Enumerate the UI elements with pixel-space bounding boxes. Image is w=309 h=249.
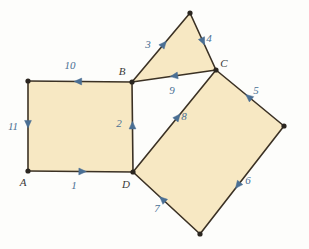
vertex-dot-A: [25, 168, 30, 173]
edge-5-label: 5: [253, 84, 259, 96]
edge-3-label: 3: [144, 38, 151, 50]
vertex-dot-B: [129, 79, 134, 84]
edge-2-label: 2: [116, 117, 122, 129]
edge-1-label: 1: [71, 179, 77, 191]
vertex-dot-D: [130, 169, 135, 174]
vertex-dot-left-square-top-left: [25, 78, 30, 83]
vertex-dot-right-square-east: [281, 123, 286, 128]
edge-7-label: 7: [154, 202, 160, 214]
edge-11-label: 11: [8, 120, 18, 132]
vertex-label-D: D: [121, 178, 130, 190]
vertex-dot-triangle-apex: [187, 10, 192, 15]
diagram-canvas: 1234567891011 ABCD: [0, 0, 309, 249]
edge-10-label: 10: [65, 59, 77, 71]
vertex-label-C: C: [220, 57, 228, 69]
vertex-label-B: B: [119, 65, 126, 77]
shapes-layer: [28, 13, 284, 234]
edge-9-label: 9: [169, 84, 175, 96]
vertex-label-A: A: [19, 176, 27, 188]
edge-6-label: 6: [245, 174, 251, 186]
vertex-dot-right-square-south: [197, 231, 202, 236]
edge-8-label: 8: [181, 110, 187, 122]
vertex-dot-C: [213, 67, 218, 72]
edge-4-label: 4: [206, 32, 212, 44]
geometry-diagram: 1234567891011 ABCD: [0, 0, 309, 249]
